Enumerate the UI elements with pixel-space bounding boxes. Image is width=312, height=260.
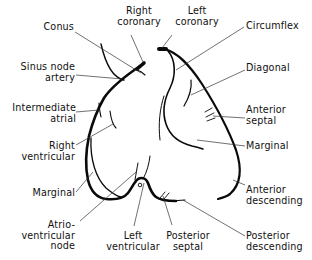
leader-intermediate-atrial — [76, 110, 99, 112]
posterior-septal-vessel-2 — [164, 193, 169, 199]
label-posterior-descending: Posterior descending — [246, 231, 312, 252]
label-diagonal: Diagonal — [246, 63, 312, 74]
right-marginal-vessel — [91, 138, 121, 197]
label-atrioventricular-node: Atrio- ventricular node — [0, 220, 75, 252]
leader-right-coronary — [131, 35, 143, 62]
leader-left-coronary — [162, 35, 172, 48]
sinus-node-artery-vessel — [101, 44, 124, 80]
leader-marginal-left — [197, 140, 245, 146]
anterior-descending-artery — [164, 49, 240, 199]
leader-conus — [75, 32, 141, 73]
leader-circumflex — [176, 27, 244, 70]
leader-diagonal — [191, 70, 245, 95]
anterior-septal-vessel-1 — [205, 108, 212, 112]
posterior-septal-vessel-1 — [160, 192, 165, 198]
anterior-septal-vessel-2 — [206, 113, 214, 117]
leader-anterior-septal — [213, 116, 245, 118]
av-node-marker — [138, 183, 142, 187]
leader-lines — [75, 27, 245, 236]
right-coronary-system — [86, 44, 185, 201]
right-coronary-ostium — [137, 63, 144, 69]
label-circumflex: Circumflex — [246, 21, 312, 32]
left-coronary-system — [159, 49, 240, 199]
left-ventricular-vessel — [143, 156, 150, 179]
circumflex-branch — [159, 96, 164, 140]
leader-left-ventricular — [134, 183, 144, 226]
conus-branch — [137, 70, 145, 75]
label-anterior-septal: Anterior septal — [246, 105, 312, 126]
leader-right-ventricular — [76, 124, 113, 145]
label-conus: Conus — [20, 22, 74, 33]
label-marginal-left: Marginal — [246, 141, 312, 152]
label-sinus-node-artery: Sinus node artery — [0, 62, 75, 83]
label-anterior-descending: Anterior descending — [246, 185, 312, 206]
label-right-ventricular: Right ventricular — [0, 141, 75, 162]
label-marginal-right: Marginal — [0, 188, 75, 199]
av-node-branch — [135, 163, 138, 180]
label-right-coronary: Right coronary — [109, 6, 169, 27]
circumflex-artery — [164, 51, 203, 149]
label-left-coronary: Left coronary — [167, 6, 227, 27]
diagonal-vessel — [184, 80, 191, 106]
anterior-septal-vessel-3 — [207, 118, 215, 121]
label-intermediate-atrial: Intermediate atrial — [0, 103, 76, 124]
label-posterior-septal: Posterior septal — [155, 231, 221, 252]
